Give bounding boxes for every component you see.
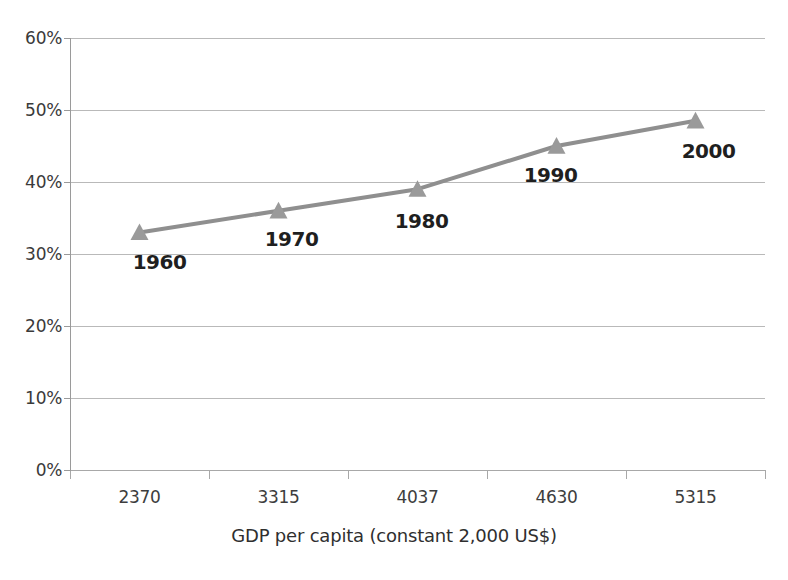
y-axis-tick-mark [64, 398, 71, 399]
y-axis-labels-group: 60%50%40%30%20%10%0% [0, 0, 62, 580]
series-marker-triangle [270, 202, 288, 219]
y-axis-tick-label: 30% [4, 244, 62, 264]
y-axis-tick-mark [64, 326, 71, 327]
x-axis-tick-label: 4037 [396, 487, 438, 507]
x-axis-tick-mark [487, 470, 488, 479]
data-point-label: 1960 [133, 250, 187, 274]
gridline [70, 38, 765, 39]
y-axis-tick-label: 40% [4, 172, 62, 192]
y-axis-tick-label: 60% [4, 28, 62, 48]
x-axis-tick-mark [209, 470, 210, 479]
data-point-label: 2000 [682, 139, 736, 163]
x-axis-tick-mark [70, 470, 71, 479]
data-point-label: 1990 [524, 163, 578, 187]
gridline [70, 326, 765, 327]
x-axis-tick-mark [348, 470, 349, 479]
series-marker-triangle [131, 223, 149, 240]
y-axis-tick-label: 0% [4, 460, 62, 480]
x-axis-title: GDP per capita (constant 2,000 US$) [0, 525, 788, 546]
y-axis-tick-label: 20% [4, 316, 62, 336]
y-axis-tick-mark [64, 38, 71, 39]
gridline [70, 110, 765, 111]
y-axis-tick-label: 10% [4, 388, 62, 408]
x-axis-tick-label: 3315 [257, 487, 299, 507]
gridline [70, 182, 765, 183]
x-axis-line [70, 470, 766, 471]
chart-container: 60%50%40%30%20%10%0% 2370331540374630531… [0, 0, 788, 580]
x-axis-tick-label: 5315 [674, 487, 716, 507]
y-axis-tick-mark [64, 110, 71, 111]
x-axis-tick-label: 4630 [535, 487, 577, 507]
y-axis-line [70, 38, 71, 472]
data-point-label: 1980 [395, 209, 449, 233]
series-marker-triangle [548, 137, 566, 154]
x-axis-tick-mark [626, 470, 627, 479]
x-axis-tick-mark [765, 470, 766, 479]
y-axis-tick-label: 50% [4, 100, 62, 120]
y-axis-tick-mark [64, 182, 71, 183]
gridline [70, 398, 765, 399]
x-axis-tick-label: 2370 [118, 487, 160, 507]
series-marker-triangle [687, 112, 705, 129]
y-axis-tick-mark [64, 254, 71, 255]
data-point-label: 1970 [265, 227, 319, 251]
y-axis-tick-mark [64, 470, 71, 471]
